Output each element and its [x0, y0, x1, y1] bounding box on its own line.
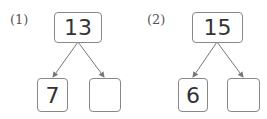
problem-2-answer-box[interactable] — [227, 78, 260, 112]
arrow-2-right — [217, 42, 243, 77]
arrow-1-right — [78, 42, 104, 77]
problem-1-label: (1) — [10, 12, 28, 27]
problem-2-left-box: 6 — [178, 78, 208, 112]
problem-1-total-box: 13 — [54, 12, 102, 43]
arrow-2-left — [193, 42, 217, 77]
arrow-1-left — [53, 42, 78, 77]
problem-2-total-box: 15 — [192, 12, 243, 43]
problem-2-label: (2) — [147, 12, 165, 27]
problem-1-left-box: 7 — [37, 78, 68, 112]
problem-1-answer-box[interactable] — [89, 78, 121, 112]
